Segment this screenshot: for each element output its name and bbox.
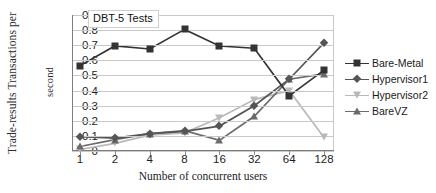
gridline — [72, 75, 334, 76]
legend-item-barevz[interactable]: BareVZ — [345, 103, 435, 119]
x-tick-label: 1 — [63, 153, 97, 165]
legend-item-label: Bare-Metal — [372, 57, 423, 69]
x-tick-label: 8 — [168, 153, 202, 165]
data-point-marker — [216, 42, 223, 49]
x-axis-title: Number of concurrent users — [72, 170, 334, 182]
legend-marker-shape — [354, 60, 361, 67]
x-tick-label: 64 — [272, 153, 306, 165]
gridline — [72, 151, 334, 152]
data-point-marker — [286, 92, 293, 99]
gridline — [72, 91, 334, 92]
plot-right-border — [333, 15, 334, 151]
legend-item-label: Hypervisor2 — [372, 89, 428, 101]
data-point-marker — [250, 113, 258, 120]
y-axis-title-line2: second — [44, 7, 56, 157]
legend-item-bare-metal[interactable]: Bare-Metal — [345, 55, 435, 71]
x-tick-label: 4 — [133, 153, 167, 165]
legend-marker-icon — [345, 89, 369, 101]
gridline — [72, 121, 334, 122]
data-point-marker — [215, 137, 223, 144]
legend-marker-shape — [353, 92, 361, 99]
data-point-marker — [251, 45, 258, 52]
series-lines — [72, 15, 334, 151]
data-point-marker — [76, 143, 84, 150]
legend-item-hypervisor1[interactable]: Hypervisor1 — [345, 71, 435, 87]
x-tick-label: 32 — [237, 153, 271, 165]
legend-marker-icon — [345, 57, 369, 69]
gridline — [72, 60, 334, 61]
legend-marker-icon — [345, 73, 369, 85]
legend-item-hypervisor2[interactable]: Hypervisor2 — [345, 87, 435, 103]
gridline — [72, 30, 334, 31]
plot-area — [72, 15, 334, 151]
data-point-marker — [321, 67, 328, 74]
chart-figure: Trade-results Transactions per second 00… — [0, 0, 436, 193]
x-tick-label: 2 — [98, 153, 132, 165]
y-axis-line — [72, 15, 73, 151]
legend-item-label: Hypervisor1 — [372, 73, 428, 85]
x-axis-line — [72, 150, 334, 151]
legend-marker-shape — [353, 108, 361, 115]
legend-marker-icon — [345, 105, 369, 117]
data-point-marker — [111, 42, 118, 49]
chart-title: DBT-5 Tests — [88, 10, 159, 28]
data-point-marker — [181, 26, 188, 33]
chart-legend: Bare-MetalHypervisor1Hypervisor2BareVZ — [345, 55, 435, 119]
data-point-marker — [77, 62, 84, 69]
legend-marker-shape — [352, 74, 361, 83]
data-point-marker — [320, 134, 328, 141]
x-tick-label: 16 — [202, 153, 236, 165]
x-tick-label: 128 — [307, 153, 341, 165]
series-line — [80, 29, 324, 95]
gridline — [72, 106, 334, 107]
y-axis-title-line1: Trade-results Transactions per — [6, 8, 20, 158]
legend-item-label: BareVZ — [372, 105, 408, 117]
data-point-marker — [215, 114, 223, 121]
data-point-marker — [146, 46, 153, 53]
